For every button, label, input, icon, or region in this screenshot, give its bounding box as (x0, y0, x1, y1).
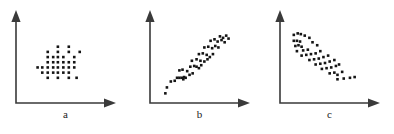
data-point (316, 44, 319, 47)
data-points-b (164, 34, 230, 94)
scatter-plot-a-svg (0, 0, 131, 112)
y-axis-arrow-c (275, 10, 284, 22)
data-point (57, 56, 60, 59)
data-points-a (36, 45, 81, 79)
data-point (212, 53, 215, 56)
data-point (181, 68, 184, 71)
data-point (62, 66, 65, 69)
data-point (166, 86, 169, 89)
data-point (62, 56, 65, 59)
panel-label-b: b (134, 108, 265, 120)
data-point (36, 66, 39, 69)
data-point (227, 37, 230, 40)
data-point (68, 45, 71, 48)
data-point (211, 47, 214, 50)
data-point (62, 61, 65, 64)
data-point (300, 54, 303, 57)
scatter-plot-c-svg (264, 0, 394, 112)
data-point (57, 51, 60, 54)
data-point (46, 61, 49, 64)
data-point (205, 54, 208, 57)
data-point (333, 71, 336, 74)
axis-lines-a (16, 20, 106, 103)
data-point (62, 71, 65, 74)
scatter-panel-a: a (0, 0, 131, 134)
data-point (41, 66, 44, 69)
scatter-plot-figure: a b c (0, 0, 394, 134)
data-point (198, 67, 201, 70)
data-point (188, 74, 191, 77)
data-point (328, 60, 331, 63)
axis-lines-b (150, 20, 240, 103)
data-point (75, 77, 78, 80)
data-point (338, 63, 341, 66)
data-point (319, 62, 322, 65)
data-point (349, 77, 352, 80)
data-point (296, 32, 299, 35)
data-point (170, 80, 173, 83)
data-point (68, 51, 71, 54)
data-point (297, 44, 300, 47)
data-point (307, 48, 310, 51)
data-point (68, 77, 71, 80)
data-point (216, 40, 219, 43)
data-point (219, 35, 222, 38)
data-point (198, 53, 201, 56)
data-point (184, 77, 187, 80)
data-point (305, 54, 308, 57)
data-point (52, 61, 55, 64)
data-point (193, 65, 196, 68)
data-point (52, 66, 55, 69)
data-point (325, 67, 328, 70)
data-point (52, 71, 55, 74)
data-point (178, 69, 181, 72)
data-point (314, 52, 317, 55)
panel-label-a: a (0, 108, 131, 120)
data-point (209, 56, 212, 59)
data-point (68, 61, 71, 64)
data-point (222, 37, 225, 40)
data-point (173, 79, 176, 82)
data-point (164, 92, 167, 95)
data-point (57, 45, 60, 48)
scatter-panel-c: c (264, 0, 394, 134)
data-point (308, 37, 311, 40)
data-point (73, 66, 76, 69)
data-point (220, 39, 223, 42)
data-point (296, 50, 299, 53)
data-point (46, 71, 49, 74)
data-point (322, 56, 325, 59)
data-point (293, 34, 296, 37)
data-point (57, 61, 60, 64)
data-point (200, 64, 203, 67)
data-point (189, 65, 192, 68)
data-point (178, 77, 181, 80)
data-point (302, 49, 305, 52)
data-point (217, 46, 220, 49)
data-point (223, 41, 226, 44)
data-point (313, 58, 316, 61)
data-point (330, 66, 333, 69)
data-point (52, 56, 55, 59)
data-point (214, 45, 217, 48)
data-point (203, 46, 206, 49)
data-point (299, 40, 302, 43)
data-point (296, 40, 299, 43)
x-axis-arrow-a (104, 98, 116, 107)
data-point (46, 51, 49, 54)
data-point (209, 40, 212, 43)
data-point (207, 45, 210, 48)
data-point (311, 41, 314, 44)
data-point (300, 45, 303, 48)
data-point (310, 53, 313, 56)
data-points-c (293, 32, 356, 80)
data-point (324, 62, 327, 65)
data-point (68, 71, 71, 74)
x-axis-arrow-b (238, 98, 250, 107)
x-axis-arrow-c (368, 98, 380, 107)
axes-a (11, 10, 116, 108)
data-point (191, 72, 194, 75)
data-point (68, 66, 71, 69)
scatter-panel-b: b (134, 0, 265, 134)
data-point (319, 50, 322, 53)
